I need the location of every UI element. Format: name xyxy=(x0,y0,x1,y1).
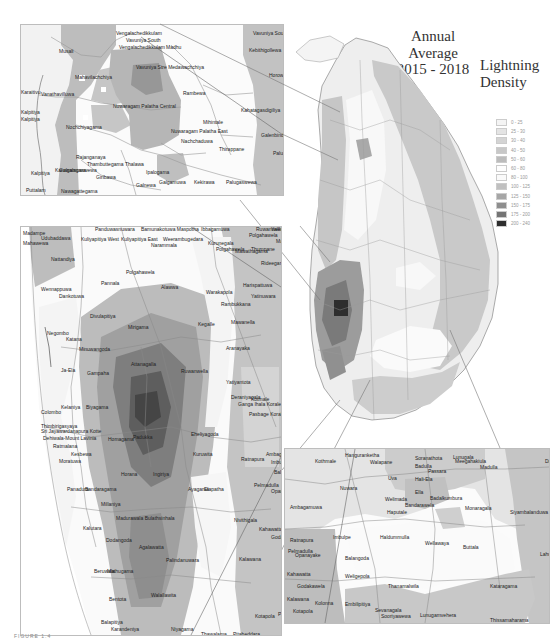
place-label: Padukka xyxy=(133,435,152,440)
legend-item: 25 - 30 xyxy=(496,127,530,136)
place-label: Galenbindunuwewa xyxy=(261,133,284,138)
place-label: Karandeniya xyxy=(111,627,139,632)
legend-label: 80 - 100 xyxy=(511,175,528,180)
place-label: Kahawatta xyxy=(287,572,311,577)
place-label: Vengalachedikkulam xyxy=(119,45,165,50)
place-label: Wellawaya xyxy=(425,541,449,546)
legend-title-line-2: Density xyxy=(480,74,560,91)
place-label: Thissamaharama xyxy=(490,618,529,623)
peak-density-cell xyxy=(334,300,348,316)
place-label: Wennappuwa xyxy=(41,287,72,292)
place-label: Horowpothana xyxy=(269,73,284,78)
legend-item: 100 - 125 xyxy=(496,182,530,191)
place-label: Nuwaragam Palatha East xyxy=(171,129,228,134)
place-label: Hanguranketha xyxy=(345,453,379,458)
place-label: Nattandiya xyxy=(51,257,75,262)
place-label: Alawwa xyxy=(161,285,178,290)
place-label: Biyagama xyxy=(86,405,108,410)
title-line-2: Average xyxy=(392,45,474,62)
place-label: Kolonna xyxy=(315,601,333,606)
place-label: Kalawana xyxy=(239,557,261,562)
place-label: Thumpane xyxy=(251,247,275,252)
place-label: Horana xyxy=(121,472,137,477)
legend-label: 30 - 40 xyxy=(511,138,525,143)
place-label: Nochchiyagama xyxy=(66,125,102,130)
legend-swatch xyxy=(496,193,507,200)
place-label: Vanathavilluwa xyxy=(41,92,74,97)
place-label: Thawalama xyxy=(201,632,227,636)
place-label: Aranayaka xyxy=(226,346,250,351)
place-label: Kotapola xyxy=(293,609,313,614)
inset-map-west: MadampePanduwasnuwaraBamunakotuwa Maspot… xyxy=(20,226,282,636)
place-label: Kataragama xyxy=(490,584,517,589)
place-label: Damana xyxy=(545,459,550,464)
legend-item: 50 - 60 xyxy=(496,155,530,164)
place-label: Warakapola xyxy=(206,290,233,295)
place-label: Pannala xyxy=(101,281,119,286)
place-label: Polgahawela xyxy=(249,233,278,238)
place-label: Kuliyapitiya West xyxy=(81,237,119,242)
map-title: Annual Average 2015 - 2018 xyxy=(392,28,474,78)
legend-swatch xyxy=(496,211,507,218)
place-label: Katana xyxy=(66,337,82,342)
place-label: Opanayake xyxy=(295,553,321,558)
place-label: Kesbewa xyxy=(71,452,92,457)
place-label: Eheliyagoda xyxy=(191,432,219,437)
place-label: Kalpitiya xyxy=(21,110,40,115)
place-label: Vavuniya South xyxy=(253,31,284,36)
place-label: Ambagamuwa xyxy=(290,505,322,510)
place-label: Polgahawela xyxy=(216,247,245,252)
place-label: Rajanganaya xyxy=(76,155,105,160)
legend-label: 125 - 150 xyxy=(511,194,530,199)
density-legend: 0 - 2525 - 3030 - 4040 - 5050 - 6060 - 8… xyxy=(496,118,530,228)
place-label: Nivithigala xyxy=(234,518,257,523)
place-label: Nachchaduwa xyxy=(181,139,213,144)
place-label: Agalawatta xyxy=(139,545,164,550)
place-label: Bandaragama xyxy=(85,487,116,492)
place-label: Divulapitiya xyxy=(90,314,116,319)
place-label: Vavuniya Stre Medawachchiya xyxy=(136,65,204,70)
place-label: Rambewa xyxy=(183,91,206,96)
place-label: Kebithigollewa xyxy=(249,48,281,53)
place-label: Gampaha xyxy=(87,371,109,376)
place-label: Godakawela xyxy=(271,535,282,540)
place-label: Siyambalanduwa xyxy=(510,510,548,515)
place-label: Opanayake xyxy=(271,489,282,494)
place-label: Mawanella xyxy=(231,320,255,325)
title-line-3: 2015 - 2018 xyxy=(392,61,474,78)
place-label: Ambagamuwa xyxy=(266,452,282,457)
inset-map-north: VengalachedikkulamVavuniya SouthVengalac… xyxy=(20,24,284,196)
place-label: Hali-Ela xyxy=(415,477,433,482)
place-label: Kalawana xyxy=(287,597,309,602)
place-label: Kalpitiya xyxy=(31,171,50,176)
place-label: Kekirawa xyxy=(194,180,215,185)
title-line-1: Annual xyxy=(392,28,474,45)
place-label: Monaragala xyxy=(465,506,491,511)
place-label: Homagama xyxy=(108,437,134,442)
place-label: Yatiyantota xyxy=(226,380,251,385)
place-label: Millaniya xyxy=(101,502,120,507)
place-label: Haputale xyxy=(387,510,407,515)
place-label: Nuwara xyxy=(340,486,357,491)
place-label: Imbulpe xyxy=(333,535,351,540)
place-label: Mawathagama xyxy=(276,239,282,244)
place-label: Ella xyxy=(415,490,423,495)
legend-title: Lightning Density xyxy=(480,57,560,90)
legend-item: 150 - 175 xyxy=(496,201,530,210)
place-label: Karaitivu xyxy=(21,90,40,95)
place-label: Bamunakotuwa Maspotha xyxy=(141,227,199,232)
place-label: Godakawela xyxy=(297,584,325,589)
place-label: Rambukkana xyxy=(221,302,250,307)
place-label: Dehiwala-Mount Lavinia xyxy=(43,436,96,441)
legend-swatch xyxy=(496,174,507,181)
inset-map-southeast: HangurankethaSoranathotaLunugalaMeegahak… xyxy=(284,448,550,624)
place-label: Thirappane xyxy=(219,147,244,152)
legend-item: 0 - 25 xyxy=(496,118,530,127)
place-label: Ibbagamuwa xyxy=(201,227,230,232)
figure-caption: FIGURE 1.4 xyxy=(14,633,51,639)
legend-item: 40 - 50 xyxy=(496,146,530,155)
place-label: Niyagama xyxy=(171,627,194,632)
legend-item: 125 - 150 xyxy=(496,192,530,201)
place-label: Sri Jayawardanapura Kotte xyxy=(41,429,101,434)
place-label: Puttalam xyxy=(26,188,46,193)
